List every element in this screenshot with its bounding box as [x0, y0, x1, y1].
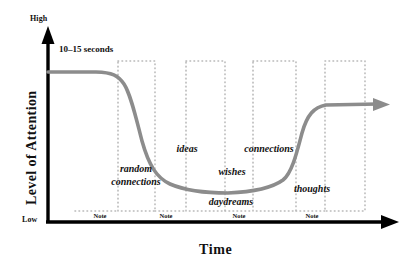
x-tick-note-2: Note: [151, 213, 181, 220]
label-random-connections: connections: [90, 177, 182, 187]
label-random: random: [96, 164, 176, 174]
y-axis-high-label: High: [30, 15, 47, 23]
x-tick-note-4: Note: [297, 213, 327, 220]
y-axis-title: Level of Attention: [25, 90, 39, 205]
y-axis: [42, 26, 55, 222]
y-axis-low-label: Low: [22, 216, 37, 224]
label-ideas: ideas: [166, 144, 208, 154]
x-tick-note-3: Note: [224, 213, 254, 220]
label-connections: connections: [232, 144, 306, 154]
label-daydreams: daydreams: [196, 197, 266, 207]
x-axis-title: Time: [199, 243, 232, 257]
label-thoughts: thoughts: [283, 184, 341, 194]
chart-canvas: [0, 0, 413, 267]
attention-curve-figure: High Low Level of Attention Time 10–15 s…: [0, 0, 413, 267]
x-tick-note-1: Note: [85, 213, 115, 220]
label-wishes: wishes: [208, 167, 256, 177]
duration-annotation: 10–15 seconds: [59, 45, 113, 54]
